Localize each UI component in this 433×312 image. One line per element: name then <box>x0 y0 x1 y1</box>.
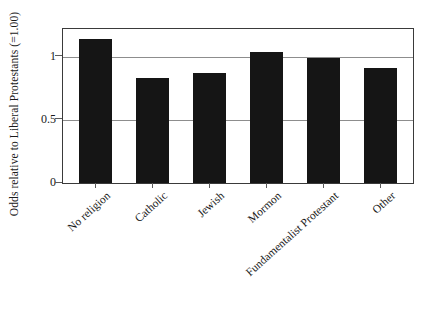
plot-area <box>62 28 414 184</box>
bar-no-religion <box>79 39 112 183</box>
bar-jewish <box>193 73 226 183</box>
y-axis-label: Odds relative to Liberal Protestants (=1… <box>9 12 21 216</box>
bar-mormon <box>250 52 283 183</box>
y-tick-label-0: 0 <box>22 176 56 188</box>
bar-other <box>364 68 397 183</box>
x-label-no-religion: No religion <box>65 190 112 234</box>
y-axis-tick-labels: 0 0.5 1 <box>22 0 56 312</box>
x-label-catholic: Catholic <box>133 190 170 225</box>
y-tick-mark-2 <box>55 55 62 56</box>
bar-series <box>63 29 413 183</box>
x-label-jewish: Jewish <box>195 190 226 219</box>
bar-fundamentalist-protestant <box>307 58 340 183</box>
x-label-other: Other <box>370 190 397 216</box>
x-label-mormon: Mormon <box>246 190 284 225</box>
y-tick-mark-0 <box>55 182 62 183</box>
bar-catholic <box>136 78 169 183</box>
y-tick-label-1: 0.5 <box>22 113 56 125</box>
bar-chart-figure: Odds relative to Liberal Protestants (=1… <box>0 0 433 312</box>
y-tick-mark-1 <box>55 118 62 119</box>
y-tick-label-2: 1 <box>22 50 56 62</box>
